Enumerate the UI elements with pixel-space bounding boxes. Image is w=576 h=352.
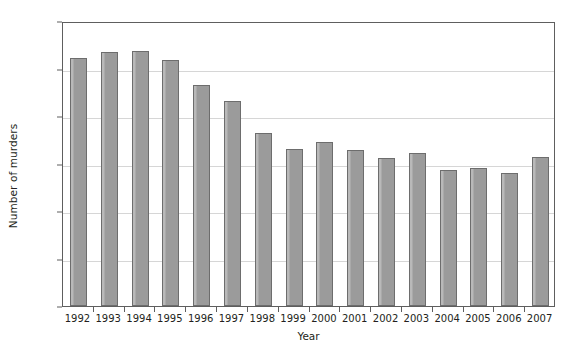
plot-area: [62, 22, 555, 307]
bar: [70, 58, 87, 306]
bar: [316, 142, 333, 306]
x-tick-mark: [524, 307, 525, 312]
bar: [255, 133, 272, 306]
bar: [501, 173, 518, 306]
x-tick-mark: [370, 307, 371, 312]
x-tick-mark: [278, 307, 279, 312]
x-tick-mark: [93, 307, 94, 312]
x-tick-mark: [247, 307, 248, 312]
x-tick-mark: [154, 307, 155, 312]
bar: [162, 60, 179, 306]
bar: [470, 168, 487, 306]
bar: [409, 153, 426, 306]
bar-chart-figure: Number of murders 020040060080010001200 …: [0, 0, 576, 352]
x-tick-mark: [432, 307, 433, 312]
bar: [347, 150, 364, 306]
bar: [132, 51, 149, 306]
x-tick-label: 2007: [520, 313, 560, 324]
bar: [378, 158, 395, 306]
x-axis-title: Year: [62, 330, 555, 342]
x-tick-mark: [339, 307, 340, 312]
x-tick-mark: [216, 307, 217, 312]
bar: [193, 85, 210, 306]
x-tick-mark: [493, 307, 494, 312]
x-tick-mark: [185, 307, 186, 312]
x-tick-mark: [309, 307, 310, 312]
x-tick-mark: [124, 307, 125, 312]
bar: [532, 157, 549, 306]
x-tick-mark: [463, 307, 464, 312]
bar: [286, 149, 303, 306]
y-axis-title: Number of murders: [0, 0, 26, 352]
bar: [101, 52, 118, 306]
bar: [440, 170, 457, 306]
x-tick-mark: [401, 307, 402, 312]
bar: [224, 101, 241, 306]
